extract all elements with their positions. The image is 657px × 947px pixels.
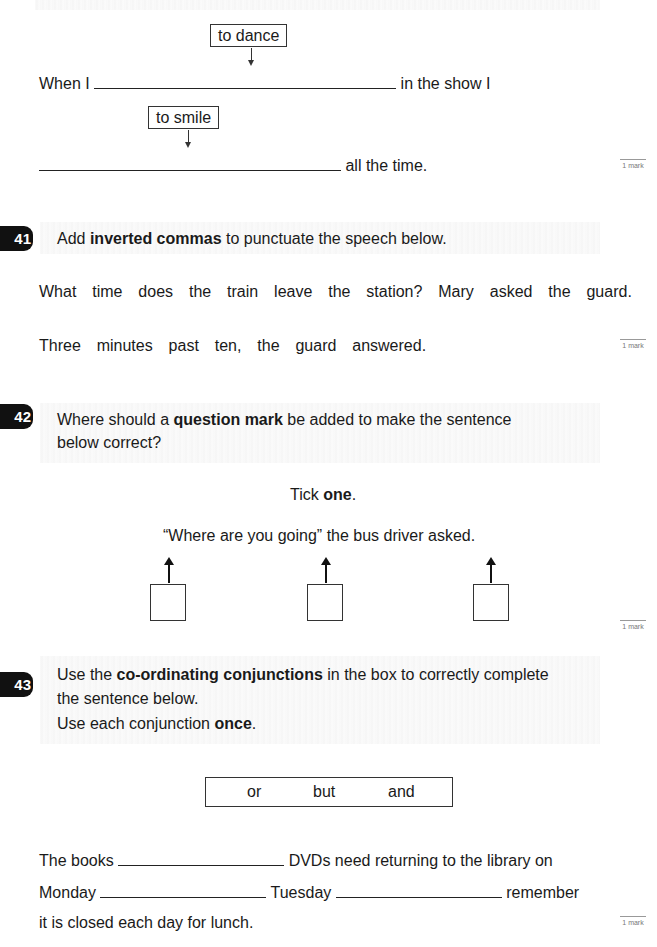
scan-artifact — [35, 0, 600, 10]
q43-sentence-line-2: Monday Tuesday remember — [39, 881, 579, 903]
arrow-up-icon — [168, 563, 170, 583]
q41-instruction: Add inverted commas to punctuate the spe… — [57, 229, 447, 249]
q42-instruction: Where should a question mark be added to… — [57, 410, 511, 430]
q43-sentence-line-3: it is closed each day for lunch. — [39, 913, 253, 933]
arrow-up-icon — [490, 563, 492, 583]
verb-box-to-smile: to smile — [148, 106, 219, 129]
answer-blank-2[interactable] — [39, 154, 341, 171]
question-number-42: 42 — [0, 404, 33, 429]
conjunction-or: or — [247, 783, 261, 801]
q43-instruction-line3: Use each conjunction once. — [57, 714, 256, 734]
answer-blank-conj-3[interactable] — [336, 881, 502, 898]
tick-box-option-2[interactable] — [307, 584, 343, 621]
text-when-i: When I — [39, 75, 90, 92]
mark-label: 1 mark — [620, 916, 646, 926]
tick-one-label: Tick one. — [290, 485, 356, 505]
tick-box-option-1[interactable] — [150, 584, 186, 621]
sentence-line-2: all the time. — [39, 154, 427, 176]
q43-sentence-line-1: The books DVDs need returning to the lib… — [39, 849, 553, 871]
answer-blank-conj-2[interactable] — [100, 881, 266, 898]
q43-instruction-line2: the sentence below. — [57, 689, 198, 709]
conjunction-and: and — [388, 783, 415, 801]
conjunction-box: or but and — [205, 777, 453, 807]
arrow-down-icon — [188, 130, 189, 144]
q43-instruction: Use the co-ordinating conjunctions in th… — [57, 665, 549, 685]
arrow-up-icon — [325, 563, 327, 583]
answer-blank-1[interactable] — [94, 72, 396, 89]
sentence-line-1: When I in the show I — [39, 72, 490, 94]
question-number-43: 43 — [0, 672, 33, 697]
conjunction-but: but — [313, 783, 335, 801]
question-number-41: 41 — [0, 226, 33, 251]
mark-label: 1 mark — [620, 620, 646, 630]
text-all-the-time: all the time. — [345, 157, 427, 174]
tick-box-option-3[interactable] — [473, 584, 509, 621]
verb-box-to-dance: to dance — [210, 24, 287, 47]
arrow-down-icon — [251, 48, 252, 62]
text-in-the-show: in the show I — [401, 75, 491, 92]
q42-instruction-line2: below correct? — [57, 433, 161, 453]
answer-blank-conj-1[interactable] — [118, 849, 284, 866]
q42-sentence: “Where are you going” the bus driver ask… — [163, 526, 475, 546]
mark-label: 1 mark — [620, 339, 646, 349]
q41-speech-line-2: Three minutes past ten, the guard answer… — [39, 336, 426, 356]
q41-speech-line-1: What time does the train leave the stati… — [39, 282, 632, 302]
mark-label: 1 mark — [620, 159, 646, 169]
